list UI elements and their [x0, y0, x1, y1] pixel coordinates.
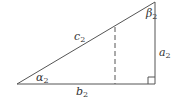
label-a2: a2 — [159, 47, 171, 60]
label-c2: c2 — [74, 31, 85, 44]
label-b2: b2 — [76, 86, 88, 99]
label-beta2: β2 — [146, 8, 157, 21]
triangle-diagram: c2 a2 b2 α2 β2 — [0, 0, 177, 102]
right-angle-marker — [148, 77, 155, 84]
label-alpha2: α2 — [36, 72, 49, 85]
